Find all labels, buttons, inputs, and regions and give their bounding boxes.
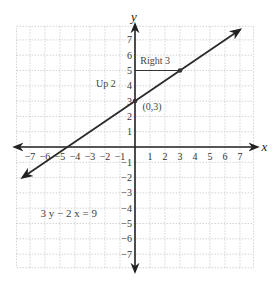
y-axis-label: y xyxy=(129,9,137,24)
y-tick-label: −2 xyxy=(121,172,132,183)
y-tick-label: 7 xyxy=(127,34,132,45)
x-tick-label: −7 xyxy=(25,151,36,162)
x-tick-label: 7 xyxy=(238,151,243,162)
annotation-up-2: Up 2 xyxy=(96,78,116,89)
y-tick-label: −4 xyxy=(121,203,132,214)
y-tick-label: −3 xyxy=(121,187,132,198)
x-tick-label: 3 xyxy=(178,151,183,162)
annotation-point-0-3: (0,3) xyxy=(143,101,162,113)
data-point xyxy=(133,99,138,104)
x-tick-label: 6 xyxy=(223,151,228,162)
x-tick-label: −4 xyxy=(70,151,81,162)
coordinate-plane-chart: −7−6−5−4−3−2−11234567−7−6−5−4−3−2−112345… xyxy=(0,0,278,285)
x-tick-label: 5 xyxy=(208,151,213,162)
x-tick-label: 1 xyxy=(148,151,153,162)
annotation-right-3: Right 3 xyxy=(140,55,170,66)
x-axis-label: x xyxy=(261,139,268,154)
y-tick-label: 5 xyxy=(127,65,132,76)
y-tick-label: −5 xyxy=(121,218,132,229)
x-tick-label: −3 xyxy=(85,151,96,162)
y-tick-label: −7 xyxy=(121,249,132,260)
y-tick-label: −1 xyxy=(121,157,132,168)
y-tick-label: 2 xyxy=(127,111,132,122)
axes xyxy=(15,24,258,272)
y-tick-label: 4 xyxy=(127,80,132,91)
y-tick-label: −6 xyxy=(121,233,132,244)
annotations: Right 3Up 2(0,3) xyxy=(96,55,180,112)
equation-label: 3 y − 2 x = 9 xyxy=(41,207,98,219)
x-tick-label: −2 xyxy=(100,151,111,162)
x-tick-label: 2 xyxy=(163,151,168,162)
y-tick-label: 6 xyxy=(127,50,132,61)
y-tick-label: 1 xyxy=(127,126,132,137)
x-tick-label: 4 xyxy=(193,151,198,162)
